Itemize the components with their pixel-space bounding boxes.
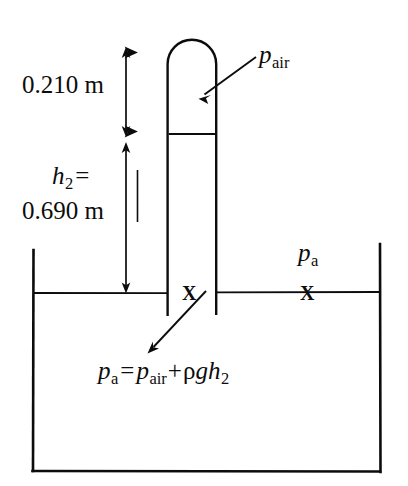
- container-right-wall: [380, 244, 381, 472]
- label-air-column-height: 0.210 m: [22, 72, 104, 97]
- tube-dome-cap: [168, 40, 217, 64]
- pointer-equation-line: [154, 291, 207, 347]
- p-air-variable: p: [259, 41, 272, 68]
- container-bottom: [33, 471, 381, 472]
- equation-lhs-variable: p: [98, 357, 111, 384]
- p-air-subscript: air: [272, 53, 290, 72]
- p-a-variable: p: [298, 239, 311, 266]
- equation-rhs-variable: p: [136, 357, 149, 384]
- p-a-subscript: a: [311, 251, 319, 270]
- pointer-equation: [148, 291, 207, 354]
- x-mark-open-surface: X: [300, 282, 314, 305]
- equation-rhs-subscript: air: [149, 369, 167, 388]
- h2-variable: h: [52, 162, 65, 189]
- equation-plus: +: [167, 357, 183, 384]
- equation-rho: ρ: [183, 357, 195, 384]
- equation-pressure-balance: pa=pair+ρgh2: [98, 358, 229, 387]
- x-mark-tube-surface: X: [182, 282, 196, 305]
- container-left-wall: [33, 250, 34, 471]
- label-h2-value: 0.690 m: [22, 198, 104, 223]
- liquid-surface-lines: [33, 292, 380, 293]
- equation-equals: =: [118, 357, 136, 384]
- equation-h-subscript: 2: [220, 369, 229, 388]
- h2-subscript: 2: [65, 174, 74, 193]
- label-h2-symbol: h2=: [52, 163, 91, 192]
- dimension-air-column: [122, 47, 131, 137]
- label-p-air: pair: [259, 42, 289, 71]
- equation-g: g: [195, 357, 208, 384]
- figure-canvas: 0.210 m h2= 0.690 m pair pa X X pa=pair+…: [0, 0, 408, 486]
- equation-h: h: [208, 357, 221, 384]
- tube-outline: [168, 40, 217, 316]
- pointer-p-air: [199, 57, 257, 104]
- h2-equals: =: [73, 162, 91, 189]
- pointer-p-air-head: [199, 95, 212, 104]
- pointer-p-air-line: [205, 57, 257, 95]
- dimension-h2: [122, 142, 131, 294]
- label-p-a: pa: [298, 240, 318, 269]
